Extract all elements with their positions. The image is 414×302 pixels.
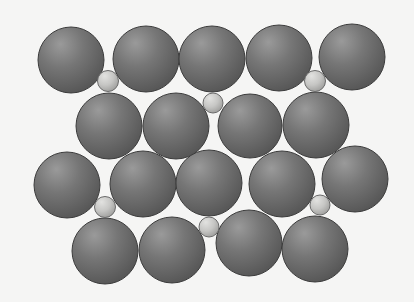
small-sphere (98, 71, 119, 92)
large-sphere (110, 151, 176, 217)
large-sphere (246, 25, 312, 91)
small-sphere (95, 197, 116, 218)
large-sphere (76, 93, 142, 159)
large-sphere (249, 151, 315, 217)
large-sphere (282, 216, 348, 282)
large-sphere (113, 26, 179, 92)
sphere-packing-diagram (0, 0, 414, 302)
large-sphere (322, 146, 388, 212)
small-sphere (310, 195, 330, 215)
large-sphere (72, 218, 138, 284)
small-sphere (305, 71, 326, 92)
large-sphere (179, 26, 245, 92)
large-sphere (143, 93, 209, 159)
large-sphere (34, 152, 100, 218)
large-sphere (38, 27, 104, 93)
large-sphere (176, 150, 242, 216)
large-sphere (283, 92, 349, 158)
large-sphere (319, 24, 385, 90)
large-sphere (139, 217, 205, 283)
large-sphere (218, 94, 282, 158)
large-sphere (216, 210, 282, 276)
small-sphere (199, 217, 219, 237)
small-sphere (203, 93, 223, 113)
